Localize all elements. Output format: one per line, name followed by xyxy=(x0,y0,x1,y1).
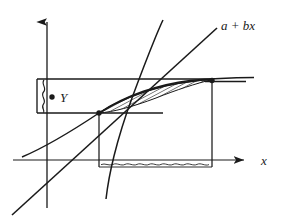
lower-intersection-dot xyxy=(96,110,101,115)
response-point-label: Y xyxy=(60,90,69,105)
band-wavy-bracket-icon xyxy=(42,80,44,113)
axes-group xyxy=(13,22,244,208)
interval-wavy-underline-icon xyxy=(101,164,209,165)
regression-line-label: a + bx xyxy=(221,18,255,33)
response-point-dot xyxy=(49,94,54,99)
diagram-canvas: Y a + bx x xyxy=(0,0,281,223)
regression-line xyxy=(12,28,217,215)
x-axis-label: x xyxy=(260,153,267,168)
curves-group xyxy=(12,20,254,215)
figure-container: Y a + bx x xyxy=(0,0,281,223)
lower-concave-curve xyxy=(22,77,254,157)
upper-intersection-dot xyxy=(209,78,214,83)
